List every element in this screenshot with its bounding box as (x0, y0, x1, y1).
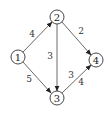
edge-1-to-2 (23, 22, 52, 52)
edge-label-3-4-b: 4 (78, 77, 84, 87)
node-label-4: 4 (93, 55, 99, 66)
edge-3-to-4 (62, 65, 91, 93)
node-1: 1 (11, 50, 25, 64)
edge-label-2-3: 3 (47, 51, 53, 61)
node-label-1: 1 (15, 52, 21, 63)
node-3: 3 (50, 91, 64, 105)
node-label-3: 3 (54, 93, 60, 104)
edge-labels: 4 5 3 2 3 4 (26, 26, 84, 87)
directed-graph: 4 5 3 2 3 4 1 2 3 4 (0, 0, 110, 113)
node-2: 2 (50, 10, 64, 24)
node-label-2: 2 (54, 12, 60, 23)
edge-label-3-4-a: 3 (68, 70, 74, 80)
edge-label-1-3: 5 (26, 74, 32, 84)
node-4: 4 (89, 53, 103, 67)
edge-label-1-2: 4 (29, 29, 35, 39)
edge-label-2-4: 2 (78, 26, 84, 36)
edge-2-to-4 (62, 22, 91, 55)
